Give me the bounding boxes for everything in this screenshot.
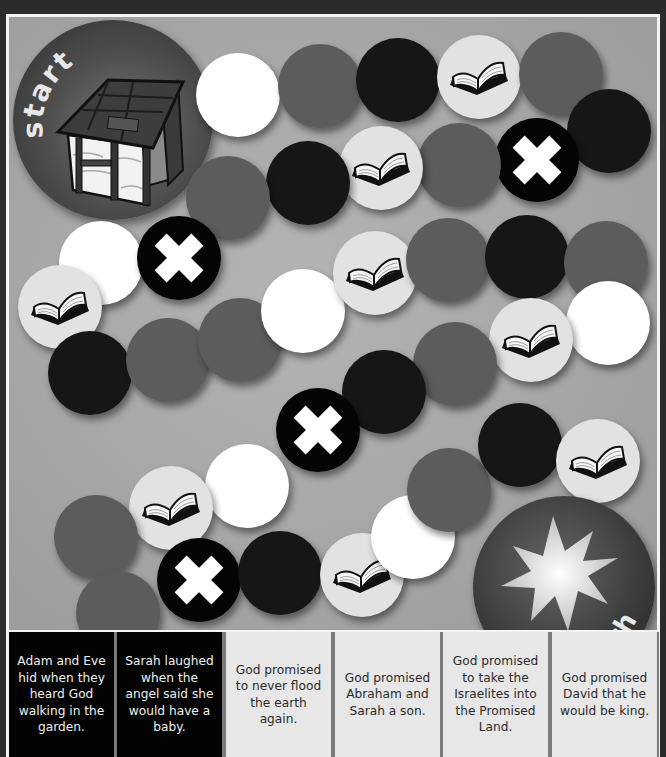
event-card: Adam and Eve hid when they heard God wal… xyxy=(9,632,114,757)
book-icon xyxy=(349,146,413,190)
game-board: start xyxy=(9,17,657,630)
x-cross-icon xyxy=(512,135,562,185)
book-icon xyxy=(447,55,511,99)
bible-book-space[interactable] xyxy=(556,419,640,503)
lose-turn-space[interactable] xyxy=(137,216,221,300)
book-icon xyxy=(566,439,630,483)
gray-space[interactable] xyxy=(278,44,362,128)
event-card: Sarah laughed when the angel said she wo… xyxy=(117,632,222,757)
black-space[interactable] xyxy=(485,215,569,299)
gray-space[interactable] xyxy=(54,495,138,579)
gray-space[interactable] xyxy=(417,123,501,207)
card-text: God promised David that he would be king… xyxy=(558,670,651,720)
promise-card: God promised to never flood the earth ag… xyxy=(226,632,331,757)
start-space[interactable]: start xyxy=(13,20,213,220)
card-text: God promised Abraham and Sarah a son. xyxy=(341,670,434,720)
x-cross-icon xyxy=(154,233,204,283)
lose-turn-space[interactable] xyxy=(276,388,360,472)
black-space[interactable] xyxy=(266,141,350,225)
promise-card: God promised to take the Israelites into… xyxy=(443,632,548,757)
bible-book-space[interactable] xyxy=(333,231,417,315)
white-space[interactable] xyxy=(566,281,650,365)
finish-label: finish xyxy=(473,496,655,630)
lose-turn-space[interactable] xyxy=(157,538,241,622)
black-space[interactable] xyxy=(48,331,132,415)
black-space[interactable] xyxy=(478,403,562,487)
promise-card: God promised David that he would be king… xyxy=(552,632,657,757)
card-strip: Adam and Eve hid when they heard God wal… xyxy=(9,632,659,757)
book-icon xyxy=(28,285,92,329)
card-text: Sarah laughed when the angel said she wo… xyxy=(123,653,216,736)
promise-card: God promised Abraham and Sarah a son. xyxy=(335,632,440,757)
bible-book-space[interactable] xyxy=(339,126,423,210)
book-icon xyxy=(139,486,203,530)
black-space[interactable] xyxy=(356,38,440,122)
black-space[interactable] xyxy=(567,89,651,173)
gray-space[interactable] xyxy=(76,571,160,630)
bible-book-space[interactable] xyxy=(489,298,573,382)
x-cross-icon xyxy=(174,555,224,605)
card-text: God promised to take the Israelites into… xyxy=(449,653,542,736)
white-space[interactable] xyxy=(261,269,345,353)
white-space[interactable] xyxy=(205,444,289,528)
lose-turn-space[interactable] xyxy=(495,118,579,202)
finish-space[interactable]: finish xyxy=(473,496,655,630)
x-cross-icon xyxy=(293,405,343,455)
book-icon xyxy=(343,251,407,295)
svg-text:finish: finish xyxy=(566,607,643,630)
gray-space[interactable] xyxy=(126,318,210,402)
black-space[interactable] xyxy=(238,531,322,615)
gray-space[interactable] xyxy=(406,218,490,302)
card-text: God promised to never flood the earth ag… xyxy=(232,662,325,728)
book-icon xyxy=(499,318,563,362)
stable-house-icon xyxy=(13,20,213,220)
card-text: Adam and Eve hid when they heard God wal… xyxy=(15,653,108,736)
white-space[interactable] xyxy=(196,53,280,137)
bible-book-space[interactable] xyxy=(437,35,521,119)
